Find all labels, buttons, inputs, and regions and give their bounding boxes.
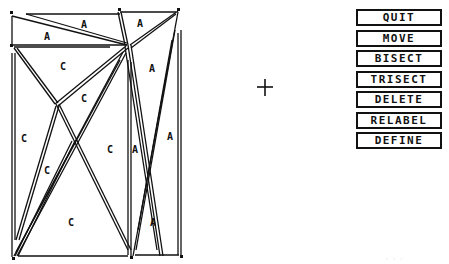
relabel-button[interactable]: RELABEL bbox=[356, 112, 442, 129]
delete-button[interactable]: DELETE bbox=[356, 91, 442, 108]
region-label[interactable]: A bbox=[150, 217, 156, 228]
trisect-button[interactable]: TRISECT bbox=[356, 71, 442, 88]
region-label[interactable]: C bbox=[107, 144, 113, 155]
region-label[interactable]: C bbox=[44, 165, 50, 176]
quit-button[interactable]: QUIT bbox=[356, 9, 442, 26]
plus-cursor-icon bbox=[257, 79, 273, 96]
region-label[interactable]: A bbox=[167, 131, 173, 142]
command-menu: QUIT MOVE BISECT TRISECT DELETE RELABEL … bbox=[356, 9, 442, 153]
region-label[interactable]: A bbox=[132, 144, 138, 155]
region-label[interactable]: C bbox=[81, 93, 87, 104]
region-label[interactable]: A bbox=[137, 18, 143, 29]
region-label[interactable]: C bbox=[21, 133, 27, 144]
define-button[interactable]: DEFINE bbox=[356, 132, 442, 149]
region-label[interactable]: A bbox=[44, 31, 50, 42]
region-label[interactable]: A bbox=[81, 19, 87, 30]
region-label[interactable]: A bbox=[149, 63, 155, 74]
region-label[interactable]: C bbox=[68, 217, 74, 228]
region-label[interactable]: C bbox=[60, 61, 66, 72]
move-button[interactable]: MOVE bbox=[356, 30, 442, 47]
bisect-button[interactable]: BISECT bbox=[356, 50, 442, 67]
footer-text: · · · bbox=[385, 255, 403, 262]
